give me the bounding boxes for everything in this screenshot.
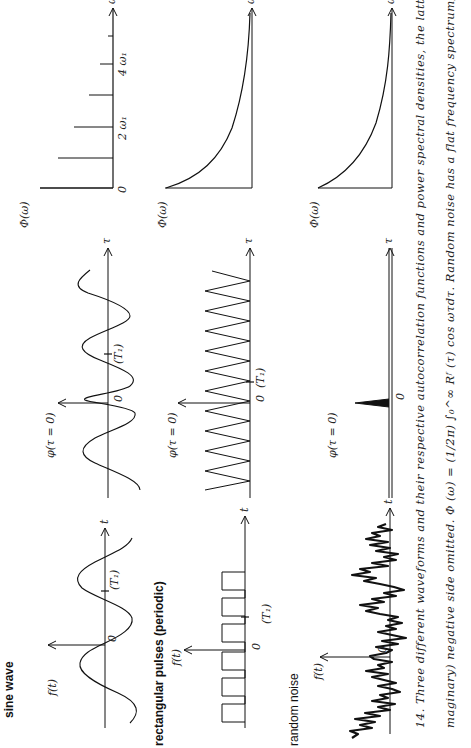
figure-caption: 14. Three different waveforms and their … <box>405 8 465 728</box>
noise-spectrum-plot <box>0 0 471 748</box>
noise-omega-label: ω <box>384 0 397 4</box>
noise-spectrum-y-label: Φ(ω) <box>308 201 321 228</box>
rotated-figure-page: sine wave f(t) t 0 (T₁) φ(τ = 0) τ 0 (T₁… <box>0 0 471 748</box>
caption-line-1: 14. Three different waveforms and their … <box>405 8 435 728</box>
caption-line-2: maginary) negative side omitted. Φ (ω) =… <box>435 8 465 728</box>
